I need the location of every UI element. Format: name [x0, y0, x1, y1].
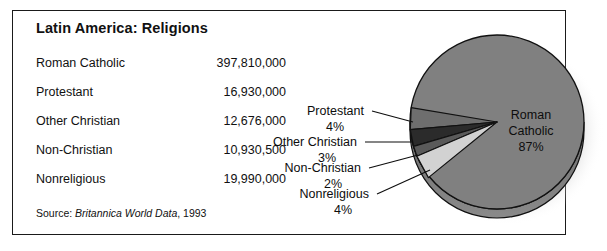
pie-label-protestant-pct: 4% [326, 120, 344, 134]
pie-label-protestant-name: Protestant [307, 104, 365, 118]
row-label-protestant: Protestant [36, 77, 171, 106]
pie-label-roman-catholic-pct: 87% [518, 140, 543, 154]
leader-line-protestant [372, 111, 413, 122]
page-title: Latin America: Religions [36, 20, 208, 36]
table-body: Roman Catholic 397,810,000 Protestant 16… [36, 48, 286, 193]
table-row: Non-Christian 10,930,500 [36, 135, 286, 164]
pie-label-nonreligious-pct: 4% [334, 203, 352, 217]
source-year: , 1993 [177, 207, 206, 219]
table-row: Nonreligious 19,990,000 [36, 164, 286, 193]
source-prefix: Source: [36, 207, 72, 219]
source-note: Source: Britannica World Data, 1993 [36, 207, 206, 219]
leader-line-nonreligious [377, 170, 430, 194]
row-label-roman-catholic: Roman Catholic [36, 48, 171, 77]
chart-figure-screenshot: Latin America: Religions Roman Catholic … [0, 0, 607, 251]
pie-chart-svg: Protestant 4% Other Christian 3% Non-Chr… [265, 18, 607, 233]
pie-label-nonreligious-name: Nonreligious [300, 187, 369, 201]
pie-label-roman-catholic-name: Roman [511, 108, 551, 122]
pie-label-other-christian-name: Other Christian [273, 135, 357, 149]
pie-label-roman-catholic-name2: Catholic [508, 124, 553, 138]
table-row: Other Christian 12,676,000 [36, 106, 286, 135]
leader-line-non-christian [369, 155, 418, 168]
table-row: Protestant 16,930,000 [36, 77, 286, 106]
religions-data-table: Roman Catholic 397,810,000 Protestant 16… [36, 48, 286, 193]
pie-chart: Protestant 4% Other Christian 3% Non-Chr… [265, 18, 607, 233]
table-row: Roman Catholic 397,810,000 [36, 48, 286, 77]
source-publication: Britannica World Data [75, 207, 177, 219]
row-label-non-christian: Non-Christian [36, 135, 171, 164]
pie-label-non-christian-name: Non-Christian [285, 161, 361, 175]
row-label-nonreligious: Nonreligious [36, 164, 171, 193]
row-label-other-christian: Other Christian [36, 106, 171, 135]
